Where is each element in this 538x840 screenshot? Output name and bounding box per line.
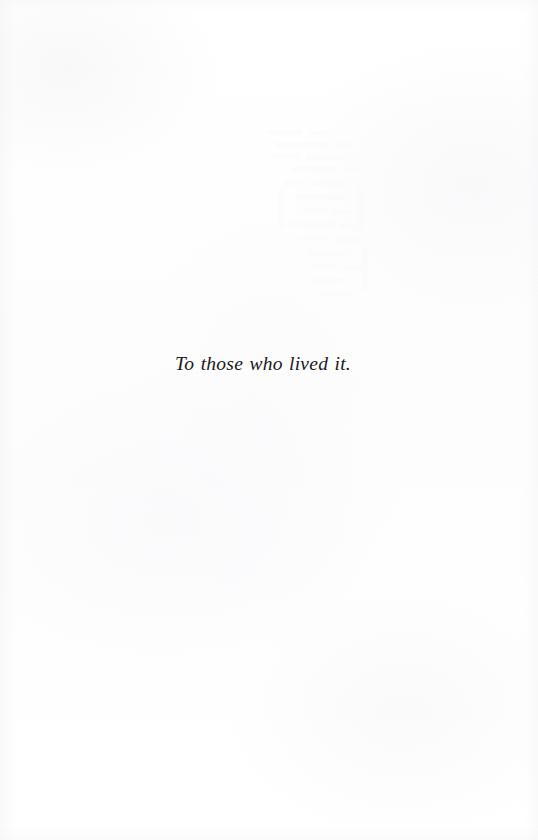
dedication-block: To those who lived it. (0, 351, 538, 377)
page-showthrough-artifact (262, 126, 392, 316)
dedication-page: To those who lived it. (0, 0, 538, 840)
dedication-text: To those who lived it. (175, 351, 351, 377)
paper-texture (0, 0, 538, 840)
scan-edge-shading (0, 0, 538, 840)
